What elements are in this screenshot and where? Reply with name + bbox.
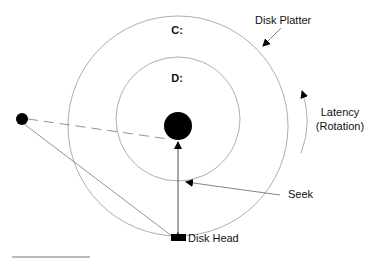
platter-pointer-arrow — [263, 28, 281, 46]
disk-diagram: C: D: Disk Platter Latency (Rotation) Se… — [0, 0, 375, 259]
label-rotation: (Rotation) — [316, 120, 364, 132]
disk-head-block — [171, 234, 186, 241]
label-partition-d: D: — [171, 72, 183, 84]
seek-pointer-arrow — [186, 182, 280, 195]
dashed-arm-line — [28, 119, 168, 139]
actuator-pivot-dot — [16, 113, 28, 125]
label-partition-c: C: — [171, 24, 183, 36]
label-disk-platter: Disk Platter — [255, 14, 312, 26]
spindle-dot — [164, 112, 192, 140]
label-latency: Latency — [321, 106, 360, 118]
label-seek: Seek — [288, 188, 314, 200]
rotation-arc-arrow — [301, 91, 307, 153]
label-disk-head: Disk Head — [188, 232, 239, 244]
actuator-arm-line — [24, 124, 172, 236]
